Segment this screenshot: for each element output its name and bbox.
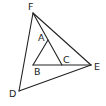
segment-DE (19, 65, 91, 91)
label-A: A (38, 32, 45, 43)
segment-FD (19, 13, 33, 91)
label-E: E (94, 61, 100, 72)
label-B: B (34, 66, 41, 77)
labels-group: F A B C E D (9, 1, 100, 99)
segment-AB (33, 40, 48, 65)
label-F: F (28, 1, 33, 12)
label-D: D (9, 88, 16, 99)
geometry-diagram: F A B C E D (0, 0, 106, 106)
label-C: C (63, 54, 70, 65)
segments-group (19, 13, 91, 91)
